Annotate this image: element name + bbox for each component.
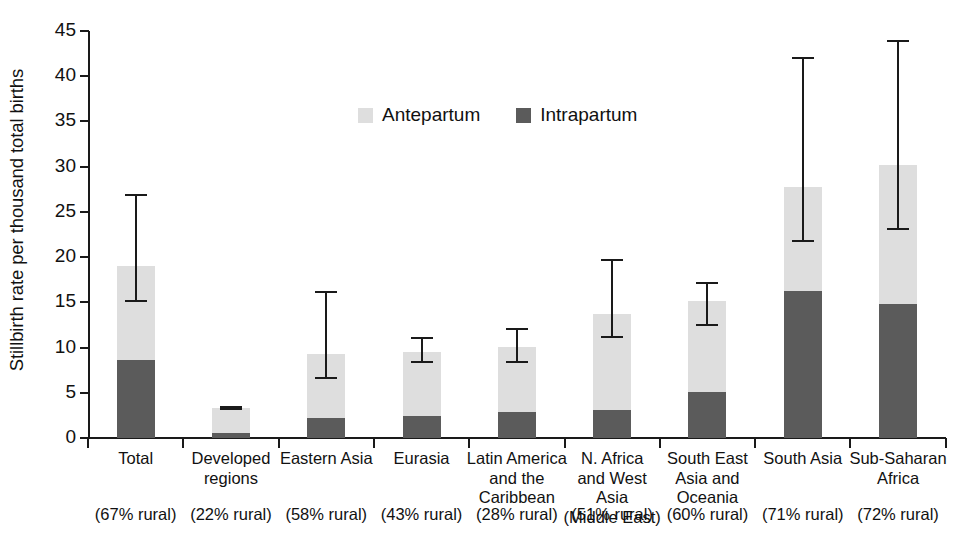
y-tick-mark (80, 120, 89, 122)
error-bar-cap-upper (696, 282, 718, 284)
x-axis-rural-percent-label: (72% rural) (847, 505, 948, 524)
x-axis-category-label: Total (85, 449, 186, 469)
x-axis-rural-percent-label: (71% rural) (752, 505, 853, 524)
error-bar (498, 328, 536, 363)
x-tick-mark (945, 438, 947, 448)
stillbirth-rate-chart: Stillbirth rate per thousand total birth… (0, 0, 956, 536)
error-bar (117, 194, 155, 303)
y-tick-mark (80, 211, 89, 213)
legend-swatch-antepartum (358, 108, 373, 123)
x-tick-mark (182, 438, 184, 448)
error-bar-stem (516, 328, 518, 363)
bar-group (403, 352, 441, 438)
chart-legend: Antepartum Intrapartum (358, 104, 637, 126)
x-axis-rural-percent-label: (60% rural) (657, 505, 758, 524)
x-axis-rural-percent-label: (43% rural) (371, 505, 472, 524)
error-bar (593, 259, 631, 338)
y-tick-mark (80, 347, 89, 349)
error-bar-stem (325, 291, 327, 380)
error-bar (688, 282, 726, 326)
x-axis-category-label: Eurasia (371, 449, 472, 469)
error-bar (403, 337, 441, 363)
x-tick-mark (87, 438, 89, 448)
x-axis-rural-percent-label: (51% rural) (562, 505, 663, 524)
x-axis-category-label: South Asia (752, 449, 853, 469)
bar-segment-intrapartum (117, 360, 155, 438)
error-bar-cap-lower (125, 300, 147, 302)
error-bar-cap-upper (792, 57, 814, 59)
bar-segment-intrapartum (688, 392, 726, 438)
bar-segment-intrapartum (307, 418, 345, 438)
error-bar-stem (611, 259, 613, 338)
error-bar (879, 40, 917, 230)
y-tick-label: 40 (34, 65, 76, 84)
error-bar-stem (421, 337, 423, 363)
y-tick-label: 10 (34, 337, 76, 356)
y-tick-label: 15 (34, 291, 76, 310)
bar-segment-intrapartum (879, 304, 917, 438)
error-bar-cap-lower (411, 361, 433, 363)
x-axis-rural-percent-label: (67% rural) (85, 505, 186, 524)
x-axis-rural-percent-label: (58% rural) (276, 505, 377, 524)
legend-swatch-intrapartum (516, 108, 531, 123)
x-axis-category-label: Developed regions (180, 449, 281, 488)
error-bar (307, 291, 345, 380)
error-bar-cap-upper (506, 328, 528, 330)
y-tick-label: 35 (34, 110, 76, 129)
error-bar-cap-lower (506, 361, 528, 363)
y-tick-mark (80, 301, 89, 303)
bar-segment-intrapartum (498, 412, 536, 438)
y-axis-line (88, 31, 90, 438)
y-axis-title: Stillbirth rate per thousand total birth… (0, 0, 34, 440)
x-axis-category-label: Latin America and the Caribbean (466, 449, 567, 508)
error-bar-stem (897, 40, 899, 230)
bar-segment-intrapartum (784, 291, 822, 438)
legend-label-intrapartum: Intrapartum (540, 104, 637, 126)
bar-segment-intrapartum (403, 416, 441, 438)
legend-item-intrapartum: Intrapartum (516, 104, 637, 126)
x-tick-mark (373, 438, 375, 448)
y-tick-mark (80, 392, 89, 394)
error-bar-cap-upper (887, 40, 909, 42)
bar-group (212, 408, 250, 438)
y-tick-mark (80, 166, 89, 168)
error-bar-cap-lower (792, 240, 814, 242)
error-bar-stem (802, 57, 804, 242)
x-tick-mark (468, 438, 470, 448)
error-bar (784, 57, 822, 242)
x-axis-category-label: South East Asia and Oceania (657, 449, 758, 508)
error-bar-cap-lower (601, 336, 623, 338)
x-tick-mark (278, 438, 280, 448)
y-tick-mark (80, 75, 89, 77)
y-tick-mark (80, 30, 89, 32)
bar-segment-antepartum (212, 408, 250, 432)
bar-segment-intrapartum (593, 410, 631, 438)
y-tick-label: 45 (34, 20, 76, 39)
legend-label-antepartum: Antepartum (382, 104, 480, 126)
error-bar-cap-lower (220, 408, 242, 410)
y-tick-label: 30 (34, 156, 76, 175)
y-tick-label: 5 (34, 382, 76, 401)
error-bar-cap-lower (887, 228, 909, 230)
x-tick-mark (849, 438, 851, 448)
y-tick-label: 20 (34, 246, 76, 265)
x-axis-category-label: Eastern Asia (276, 449, 377, 469)
y-tick-mark (80, 256, 89, 258)
error-bar (212, 406, 250, 410)
legend-item-antepartum: Antepartum (358, 104, 480, 126)
error-bar-cap-upper (411, 337, 433, 339)
y-tick-label: 25 (34, 201, 76, 220)
x-tick-mark (754, 438, 756, 448)
error-bar-cap-lower (315, 377, 337, 379)
error-bar-cap-lower (696, 324, 718, 326)
error-bar-stem (706, 282, 708, 326)
x-tick-mark (564, 438, 566, 448)
error-bar-stem (135, 194, 137, 303)
x-axis-rural-percent-label: (28% rural) (466, 505, 567, 524)
error-bar-cap-upper (125, 194, 147, 196)
y-tick-label: 0 (34, 427, 76, 446)
error-bar-cap-upper (601, 259, 623, 261)
x-axis-category-label: Sub-Saharan Africa (847, 449, 948, 488)
x-axis-rural-percent-label: (22% rural) (180, 505, 281, 524)
error-bar-cap-upper (315, 291, 337, 293)
